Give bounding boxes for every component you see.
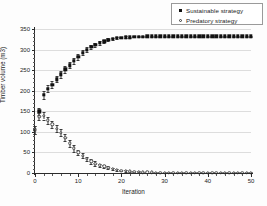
data-point [55,127,58,130]
x-tick [35,174,36,177]
y-tick [32,152,35,153]
x-tick-label: 30 [161,178,168,184]
x-tick [251,174,252,177]
error-bar-cap [38,120,41,121]
data-point [120,36,123,39]
x-tick [121,174,122,177]
error-bar-cap [107,169,110,170]
x-tick-minor [234,174,235,176]
x-tick-minor [156,174,157,176]
y-tick-minor [33,95,35,96]
x-tick-minor [130,174,131,176]
y-tick [32,29,35,30]
data-point [180,35,183,38]
data-point [51,123,54,126]
data-point [46,87,49,90]
y-tick-minor [33,62,35,63]
x-tick-label: 40 [204,178,211,184]
x-tick-minor [199,174,200,176]
data-point [150,35,153,38]
x-tick-minor [216,174,217,176]
x-tick [208,174,209,177]
y-tick-minor [33,103,35,104]
error-bar-cap [51,88,54,89]
error-bar-cap [68,68,71,69]
data-point [46,119,49,122]
y-tick-minor [33,107,35,108]
y-tick [32,50,35,51]
error-bar-cap [42,120,45,121]
error-bar-cap [85,161,88,162]
data-point [68,64,71,67]
y-tick-minor [33,58,35,59]
error-bar-cap [46,117,49,118]
x-tick-minor [173,174,174,176]
y-tick-minor [33,120,35,121]
legend-label-sustainable: Sustainable strategy [186,6,243,15]
data-point [51,83,54,86]
error-bar-cap [68,147,71,148]
y-tick-label: 250 [20,67,30,73]
x-tick-minor [182,174,183,176]
error-bar-cap [42,91,45,92]
x-tick-minor [61,174,62,176]
data-point [133,35,136,38]
data-point [38,115,41,118]
x-tick-minor [139,174,140,176]
x-tick-label: 10 [75,178,82,184]
y-tick-minor [33,115,35,116]
error-bar-cap [98,167,101,168]
data-point [223,35,226,38]
data-point [172,35,175,38]
y-axis-ticks: 050100150200250300350 [0,0,35,206]
data-point [64,136,67,139]
data-point [193,35,196,38]
data-point [228,35,231,38]
error-bar-cap [38,108,41,109]
data-point [167,35,170,38]
y-tick-minor [33,74,35,75]
timber-volume-chart: Sustainable strategy Predatory strategy … [0,0,267,206]
y-tick [32,91,35,92]
error-bar-cap [59,129,62,130]
x-tick-minor [225,174,226,176]
error-bar-cap [42,99,45,100]
data-point [236,35,239,38]
error-bar-cap [111,170,114,171]
data-point [137,35,140,38]
y-tick-label: 350 [20,26,30,32]
y-tick-label: 0 [27,170,30,176]
y-tick-minor [33,148,35,149]
x-tick-minor [191,174,192,176]
data-point [219,35,222,38]
error-bar-cap [103,168,106,169]
data-point [81,51,84,54]
chart-legend: Sustainable strategy Predatory strategy [171,3,263,25]
data-series-layer [35,29,251,173]
filled-square-icon [175,9,186,13]
plot-area [35,29,251,173]
error-bar-cap [59,136,62,137]
y-tick-minor [33,33,35,34]
y-tick [32,132,35,133]
data-point [163,35,166,38]
x-tick-label: 0 [33,178,36,184]
y-tick-minor [33,124,35,125]
x-tick-minor [52,174,53,176]
data-point [232,35,235,38]
error-bar-cap [55,82,58,83]
data-point [249,35,252,38]
open-circle-icon [175,19,186,23]
x-tick-label: 20 [118,178,125,184]
x-tick-label: 50 [248,178,255,184]
y-tick-minor [33,45,35,46]
data-point [176,35,179,38]
x-tick-minor [87,174,88,176]
y-tick [32,70,35,71]
error-bar-cap [94,166,97,167]
y-tick-minor [33,161,35,162]
data-point [81,154,84,157]
error-bar-cap [77,155,80,156]
data-point [85,157,88,160]
data-point [210,35,213,38]
